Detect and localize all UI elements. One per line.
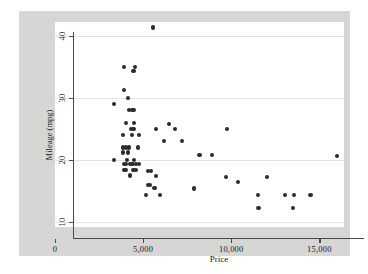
data-point (173, 127, 177, 131)
y-tick-10 (69, 222, 73, 223)
data-point (158, 193, 162, 197)
y-tick-20 (69, 160, 73, 161)
data-point (112, 158, 116, 162)
x-axis-title: Price (210, 254, 229, 264)
x-tick-label-0: 0 (53, 244, 57, 254)
data-point (123, 168, 127, 172)
data-point (292, 193, 296, 197)
x-tick-15000 (319, 239, 320, 243)
x-tick-label-15000: 15,000 (307, 244, 332, 254)
data-point (130, 133, 134, 137)
data-point (134, 168, 138, 172)
data-point (197, 153, 201, 157)
data-point (122, 65, 126, 69)
data-point (154, 127, 158, 131)
y-tick-label-10: 10 (57, 218, 67, 227)
data-point (180, 139, 184, 143)
data-point (122, 88, 126, 92)
data-point (144, 193, 148, 197)
data-point (137, 162, 141, 166)
data-point (162, 139, 166, 143)
data-point (225, 127, 229, 131)
data-point (131, 127, 135, 131)
data-point (210, 153, 214, 157)
y-tick-label-20: 20 (57, 155, 67, 164)
data-point (149, 169, 153, 173)
gridline-y-20 (55, 160, 344, 161)
data-point (236, 180, 240, 184)
data-point (132, 121, 136, 125)
data-point (131, 69, 135, 73)
data-point (131, 108, 135, 112)
figure-background: Mileage (mpg) Price 1020304005,00010,000… (19, 11, 350, 256)
data-point (137, 133, 141, 137)
data-point (224, 175, 228, 179)
data-point (112, 102, 116, 106)
data-point (192, 186, 196, 190)
data-point (127, 145, 131, 149)
data-point (335, 154, 339, 158)
x-tick-10000 (231, 239, 232, 243)
gridline-y-10 (55, 222, 344, 223)
y-axis-title: Mileage (mpg) (44, 110, 54, 161)
data-point (126, 96, 130, 100)
data-point (152, 186, 156, 190)
data-point (265, 175, 269, 179)
data-point (128, 173, 132, 177)
y-tick-30 (69, 98, 73, 99)
data-point (154, 174, 158, 178)
data-point (136, 145, 140, 149)
data-point (121, 150, 125, 154)
y-tick-label-40: 40 (57, 31, 67, 40)
data-point (151, 25, 155, 29)
data-point (121, 133, 125, 137)
plot-area (55, 22, 344, 227)
y-tick-40 (69, 36, 73, 37)
gridline-y-30 (55, 98, 344, 99)
gridline-y-40 (55, 36, 344, 37)
y-axis-line (73, 32, 74, 239)
x-tick-0 (55, 239, 56, 243)
data-point (167, 122, 171, 126)
data-point (283, 193, 287, 197)
data-point (291, 206, 295, 210)
x-tick-label-5000: 5,000 (133, 244, 153, 254)
y-tick-label-30: 30 (57, 93, 67, 102)
x-tick-5000 (143, 239, 144, 243)
data-point (308, 193, 312, 197)
x-tick-label-10000: 10,000 (219, 244, 244, 254)
data-point (256, 206, 260, 210)
data-point (256, 193, 260, 197)
data-point (126, 150, 130, 154)
data-point (124, 121, 128, 125)
